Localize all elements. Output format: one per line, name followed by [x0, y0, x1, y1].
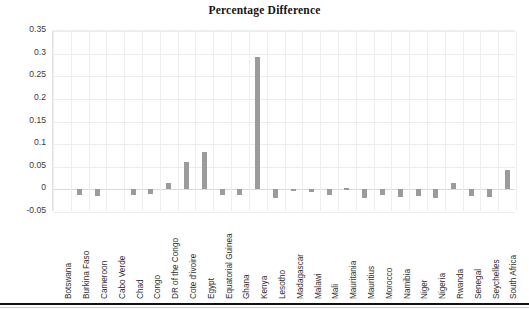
gridline-vertical — [106, 31, 107, 211]
footer-divider-secondary — [0, 307, 529, 308]
bar — [398, 189, 403, 196]
gridline-vertical — [320, 31, 321, 211]
plot-wrapper — [52, 30, 515, 211]
x-axis-tick-label: Mali — [331, 284, 340, 299]
gridline-vertical — [285, 31, 286, 211]
x-axis-tick-label: Malawi — [314, 274, 323, 299]
y-axis-tick-label: -0.05 — [2, 206, 46, 215]
chart-title: Percentage Difference — [0, 4, 529, 16]
gridline-vertical — [498, 31, 499, 211]
gridline-vertical — [249, 31, 250, 211]
x-axis-tick-label: Congo — [153, 275, 162, 299]
bar — [184, 162, 189, 189]
gridline-vertical — [338, 31, 339, 211]
x-axis-tick-label: Lesotho — [278, 270, 287, 299]
y-axis-tick-label: 0.25 — [2, 70, 46, 79]
x-axis-tick-label: Rwanda — [456, 269, 465, 299]
x-axis-tick-label: Ghana — [242, 274, 251, 299]
gridline-vertical — [124, 31, 125, 211]
bar — [273, 189, 278, 197]
bar — [166, 183, 171, 189]
bar — [380, 189, 385, 195]
gridline-vertical — [480, 31, 481, 211]
x-axis-tick-label: Burkina Faso — [82, 251, 91, 299]
footer-divider — [0, 303, 529, 305]
bar — [291, 189, 296, 191]
x-axis-tick-label: Cabo Verde — [118, 256, 127, 299]
gridline-vertical — [516, 31, 517, 211]
gridline-vertical — [427, 31, 428, 211]
bar — [487, 189, 492, 196]
bar — [505, 170, 510, 189]
x-axis-tick-label: South Africa — [509, 255, 518, 299]
y-axis-tick-label: 0.05 — [2, 161, 46, 170]
bar — [469, 189, 474, 195]
y-axis-tick-label: 0.3 — [2, 48, 46, 57]
bar — [220, 189, 225, 195]
bar — [327, 189, 332, 195]
y-axis-tick-label: 0.15 — [2, 116, 46, 125]
gridline-vertical — [53, 31, 54, 211]
y-axis-tick-label: 0.1 — [2, 138, 46, 147]
gridline-vertical — [356, 31, 357, 211]
gridline-vertical — [463, 31, 464, 211]
gridline-vertical — [445, 31, 446, 211]
x-axis-tick-label: Equatorial Guinea — [225, 233, 234, 299]
x-axis-tick-label: Mauritius — [367, 266, 376, 299]
x-axis-tick-label: Chad — [136, 279, 145, 299]
x-axis-tick-label: Egypt — [207, 278, 216, 299]
bar — [309, 189, 314, 191]
bar — [433, 189, 438, 198]
bar — [77, 189, 82, 194]
x-axis-tick-label: Botswana — [64, 263, 73, 299]
gridline-vertical — [89, 31, 90, 211]
plot-area — [52, 30, 515, 211]
x-axis-tick-label: Namibia — [403, 269, 412, 299]
x-axis-tick-label: Seychelles — [492, 259, 501, 299]
gridline-vertical — [142, 31, 143, 211]
bar — [416, 189, 421, 195]
gridline-vertical — [213, 31, 214, 211]
gridline-vertical — [195, 31, 196, 211]
gridline-vertical — [178, 31, 179, 211]
bar — [451, 183, 456, 189]
gridline-vertical — [374, 31, 375, 211]
gridline-horizontal — [53, 212, 515, 213]
y-axis-tick-label: 0.2 — [2, 93, 46, 102]
y-axis-tick-label: 0 — [2, 183, 46, 192]
x-axis-tick-label: Morocco — [385, 268, 394, 299]
gridline-vertical — [409, 31, 410, 211]
bar — [95, 189, 100, 196]
bar — [202, 152, 207, 190]
bar — [131, 189, 136, 194]
bar — [255, 57, 260, 190]
bar — [148, 189, 153, 194]
x-axis-tick-label: DR of the Congo — [171, 238, 180, 299]
chart-figure: Percentage Difference 0.350.30.250.20.15… — [0, 0, 529, 316]
bar — [237, 189, 242, 195]
gridline-vertical — [267, 31, 268, 211]
x-axis-tick-label: Cameroon — [100, 261, 109, 299]
y-axis-tick-label: 0.35 — [2, 25, 46, 34]
x-axis-tick-label: Mauritania — [349, 261, 358, 299]
x-axis-tick-label: Kenya — [260, 276, 269, 299]
gridline-vertical — [231, 31, 232, 211]
gridline-vertical — [160, 31, 161, 211]
x-axis-tick-label: Cote d'ivoire — [189, 254, 198, 299]
bar — [362, 189, 367, 198]
gridline-vertical — [71, 31, 72, 211]
x-axis-tick-label: Nigeria — [438, 273, 447, 299]
x-axis-tick-label: Niger — [420, 279, 429, 299]
x-axis-tick-label: Madagascar — [296, 254, 305, 299]
x-axis-tick-label: Senegal — [474, 269, 483, 299]
gridline-vertical — [391, 31, 392, 211]
gridline-vertical — [302, 31, 303, 211]
bar — [344, 188, 349, 190]
